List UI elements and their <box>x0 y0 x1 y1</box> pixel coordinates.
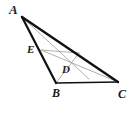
vertex-label-a: A <box>9 3 18 16</box>
triangle-outline-group <box>22 17 118 83</box>
vertex-label-b: B <box>52 87 60 99</box>
triangle-diagram-canvas <box>0 0 132 114</box>
vertex-label-c: C <box>118 88 126 100</box>
side-BC <box>56 82 118 83</box>
vertex-label-e: E <box>27 44 34 55</box>
side-AC <box>22 17 118 82</box>
geometry-figure: A E D B C <box>0 0 132 114</box>
vertex-label-d: D <box>62 64 70 75</box>
